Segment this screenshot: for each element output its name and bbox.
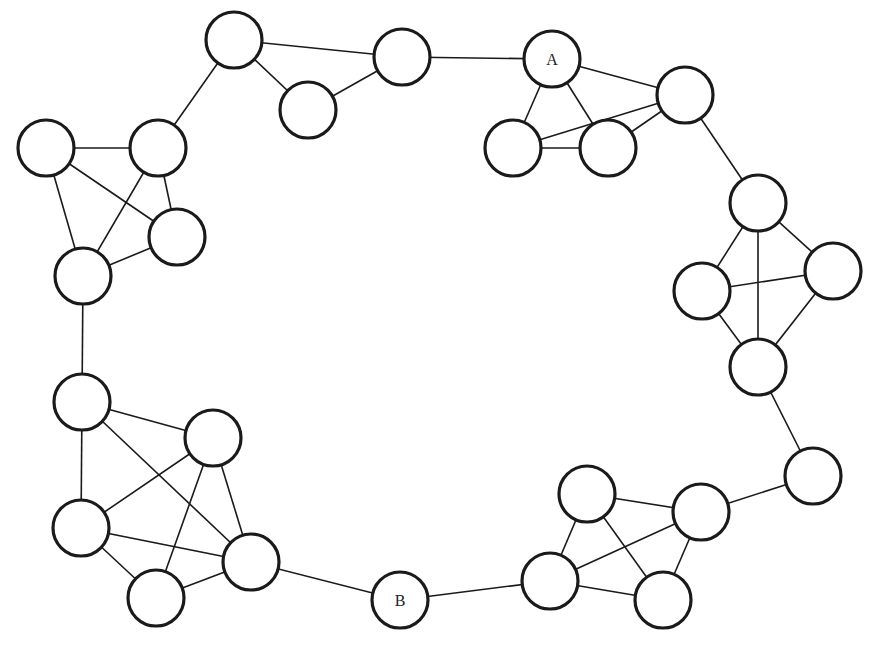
node-circle xyxy=(280,82,336,138)
node xyxy=(522,553,578,609)
node-circle xyxy=(673,484,729,540)
node-circle xyxy=(657,67,713,123)
node xyxy=(55,248,111,304)
node-circle xyxy=(55,248,111,304)
node-circle xyxy=(53,500,109,556)
node xyxy=(580,120,636,176)
node-circle xyxy=(485,120,541,176)
node-label: B xyxy=(395,592,406,609)
node-circle xyxy=(128,570,184,626)
node-circle xyxy=(206,12,262,68)
node-circle xyxy=(674,263,730,319)
node-circle xyxy=(785,448,841,504)
node-circle xyxy=(559,466,615,522)
node xyxy=(223,534,279,590)
node xyxy=(206,12,262,68)
node xyxy=(730,339,786,395)
node-circle xyxy=(185,410,241,466)
node xyxy=(128,570,184,626)
node-label: A xyxy=(546,51,558,68)
node xyxy=(54,374,110,430)
network-graph-diagram: AB xyxy=(0,0,879,648)
node-circle xyxy=(223,534,279,590)
node xyxy=(53,500,109,556)
node xyxy=(635,572,691,628)
node xyxy=(185,410,241,466)
node-A: A xyxy=(524,31,580,87)
node-circle xyxy=(18,120,74,176)
node xyxy=(673,484,729,540)
node-circle xyxy=(54,374,110,430)
nodes-layer: AB xyxy=(18,12,861,628)
node xyxy=(657,67,713,123)
node xyxy=(559,466,615,522)
node-circle xyxy=(730,339,786,395)
node-circle xyxy=(730,175,786,231)
node xyxy=(18,120,74,176)
node-circle xyxy=(635,572,691,628)
node xyxy=(374,29,430,85)
node-circle xyxy=(374,29,430,85)
node xyxy=(149,209,205,265)
node-circle xyxy=(130,120,186,176)
node-circle xyxy=(149,209,205,265)
node xyxy=(485,120,541,176)
node-circle xyxy=(805,243,861,299)
node xyxy=(805,243,861,299)
node xyxy=(730,175,786,231)
node-circle xyxy=(580,120,636,176)
node xyxy=(130,120,186,176)
node-circle xyxy=(522,553,578,609)
node-B: B xyxy=(372,572,428,628)
node xyxy=(785,448,841,504)
node xyxy=(674,263,730,319)
node xyxy=(280,82,336,138)
